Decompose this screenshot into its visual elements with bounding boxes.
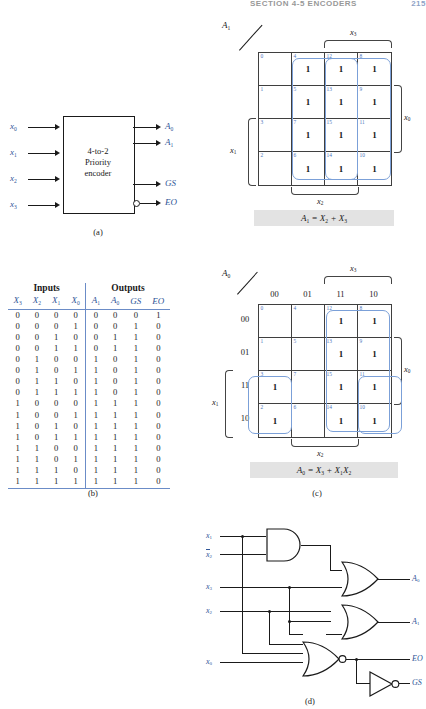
kmap-a0-cell-value: 1	[325, 349, 357, 359]
output-arrow-eo	[156, 200, 161, 206]
table-group-header-row: Inputs Outputs	[8, 283, 170, 295]
table-cell: 1	[47, 432, 66, 443]
table-cell: 0	[8, 332, 27, 343]
panel-d-logic-circuit: x1 x2 x3 x2 x0 A0 A1	[200, 520, 426, 709]
table-cell: 1	[125, 454, 147, 465]
kmap-a1-cell: 121	[325, 53, 358, 86]
output-arrow-a1	[156, 140, 161, 146]
input-arrow-x2	[55, 176, 60, 182]
table-cell: 0	[105, 309, 124, 321]
table-cell: 0	[105, 354, 124, 365]
kmap-a1-cell-value: 1	[325, 97, 357, 107]
panel-a-caption: (a)	[68, 227, 128, 237]
encoder-block-label: 4-to-2 Priority encoder	[63, 146, 133, 179]
table-cell: 0	[147, 354, 170, 365]
table-row: 11001110	[8, 443, 170, 454]
table-row: 01111010	[8, 387, 170, 398]
table-cell: 1	[105, 432, 124, 443]
output-wire-a1	[133, 143, 157, 144]
table-cell: 1	[125, 343, 147, 354]
kmap-a1-bracket-left	[248, 118, 256, 186]
kmap-a0-cell-number: 11	[360, 371, 365, 377]
table-cell: 0	[47, 309, 66, 321]
kmap-a0-cell-value: 1	[358, 382, 391, 392]
kmap-a1-cell-value: 1	[358, 130, 391, 140]
block-line-1: 4-to-2	[88, 146, 109, 156]
kmap-a0-cell-value: 1	[358, 416, 391, 426]
table-cell: 0	[147, 365, 170, 376]
table-cell: 1	[66, 454, 86, 465]
table-cell: 0	[47, 354, 66, 365]
kmap-a1-label-x2: x2	[317, 196, 323, 206]
table-row: 00000001	[8, 309, 170, 321]
page-number: 215	[411, 0, 426, 8]
table-cell: 1	[27, 354, 46, 365]
table-cell: 0	[8, 376, 27, 387]
table-cell: 0	[66, 421, 86, 432]
wire-x2-to-nor	[269, 644, 303, 645]
wire-x3-to-nor	[289, 634, 303, 635]
kmap-a1-cell: 41	[292, 53, 325, 86]
kmap-a0-cell-number: 0	[261, 305, 264, 311]
kmap-a1-cell: 71	[292, 119, 325, 152]
table-cell: 1	[86, 365, 106, 376]
col-header-x1: X1	[47, 295, 66, 309]
kmap-a1-cell: 2	[259, 152, 292, 185]
block-line-3: encoder	[85, 168, 112, 178]
table-cell: 0	[147, 443, 170, 454]
kmap-a0-bracket-top	[324, 276, 392, 284]
nor-gate-eo	[301, 640, 347, 678]
output-label-gs: GS	[165, 178, 176, 188]
input-wire-x0	[28, 127, 56, 128]
kmap-a1-cell-number: 8	[360, 53, 363, 59]
kmap-a0-grid: 04121811513191317151111216141101	[258, 304, 392, 438]
kmap-a1-cell: 141	[325, 152, 358, 185]
table-cell: 0	[8, 309, 27, 321]
kmap-a1-cell: 3	[259, 119, 292, 152]
kmap-a1-cell: 81	[358, 53, 391, 86]
kmap-a1-cell: 101	[358, 152, 391, 185]
table-row: 10111110	[8, 432, 170, 443]
kmap-a1-cell-value: 1	[358, 97, 391, 107]
wire-x2	[220, 611, 270, 612]
output-arrow-a0	[156, 124, 161, 130]
output-arrow-gs	[156, 181, 161, 187]
kmap-a1-cell-number: 5	[294, 86, 297, 92]
kmap-a1-title-slash	[239, 25, 262, 51]
table-cell: 0	[66, 398, 86, 409]
table-cell: 0	[105, 321, 124, 332]
table-cell: 0	[27, 309, 46, 321]
kmap-a1-cell-number: 12	[327, 53, 332, 59]
table-cell: 0	[66, 354, 86, 365]
kmap-a1-cell-number: 1	[261, 86, 264, 92]
table-cell: 1	[86, 387, 106, 398]
kmap-a0-cell-value: 1	[325, 316, 357, 326]
group-header-outputs: Outputs	[86, 283, 170, 295]
kmap-a1-cell-value: 1	[325, 164, 357, 174]
kmap-a1-cell: 0	[259, 53, 292, 86]
kmap-a0-cell-value: 1	[325, 382, 357, 392]
kmap-a1-bracket-top	[324, 40, 392, 48]
kmap-a0-cell: 21	[259, 404, 292, 437]
kmap-a0-cell: 31	[259, 371, 292, 404]
kmap-a1-cell: 131	[325, 86, 358, 119]
wire-x0	[220, 662, 303, 663]
table-cell: 0	[125, 309, 147, 321]
table-cell: 0	[86, 343, 106, 354]
table-cell: 1	[86, 454, 106, 465]
wire-and-out	[301, 545, 331, 546]
table-cell: 0	[27, 343, 46, 354]
kmap-a1-cell: 91	[358, 86, 391, 119]
table-row: 00010010	[8, 321, 170, 332]
panel-d-caption: (d)	[290, 696, 330, 706]
table-cell: 1	[27, 476, 46, 489]
circuit-output-a1: A1	[412, 617, 419, 626]
circuit-input-x3: x3	[206, 582, 212, 591]
kmap-a0-cell: 5	[292, 338, 325, 371]
kmap-a0-cell: 121	[325, 305, 358, 338]
table-cell: 1	[125, 476, 147, 489]
wire-gs-out	[399, 683, 410, 684]
kmap-a0-title-slash	[237, 272, 258, 295]
input-label-x2: x2	[10, 173, 17, 183]
kmap-a0-cell: 7	[292, 371, 325, 404]
